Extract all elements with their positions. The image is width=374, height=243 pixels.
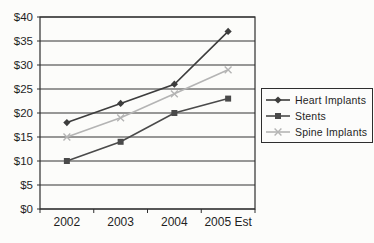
square-marker-icon xyxy=(64,158,70,164)
y-axis-label: $35 xyxy=(14,35,33,47)
x-axis-label: 2004 xyxy=(161,215,188,229)
square-marker-icon xyxy=(275,113,281,119)
square-marker-icon xyxy=(171,110,177,116)
x-axis-label: 2003 xyxy=(107,215,134,229)
legend-label: Stents xyxy=(295,110,326,122)
x-marker-icon xyxy=(171,90,178,97)
y-axis-label: $10 xyxy=(14,155,33,167)
y-axis-label: $30 xyxy=(14,59,33,71)
legend-stents-marker-icon xyxy=(266,110,290,122)
x-axis-label: 2002 xyxy=(54,215,81,229)
legend-item-heart-implants: Heart Implants xyxy=(266,93,367,106)
y-axis-label: $20 xyxy=(14,107,33,119)
legend-item-stents: Stents xyxy=(266,109,367,122)
series-line-heart-implants xyxy=(67,31,228,122)
legend-item-spine-implants: Spine Implants xyxy=(266,125,367,138)
chart-container: $0$5$10$15$20$25$30$35$40200220032004200… xyxy=(0,0,374,243)
chart-legend: Heart ImplantsStentsSpine Implants xyxy=(261,88,373,143)
y-axis-label: $25 xyxy=(14,83,33,95)
legend-label: Heart Implants xyxy=(295,94,366,106)
diamond-marker-icon xyxy=(274,96,281,103)
series-line-stents xyxy=(67,99,228,161)
x-axis-label: 2005 Est xyxy=(204,215,252,229)
square-marker-icon xyxy=(118,139,124,145)
legend-spine-implants-marker-icon xyxy=(266,126,290,138)
y-axis-label: $40 xyxy=(14,11,33,23)
x-marker-icon xyxy=(117,114,124,121)
diamond-marker-icon xyxy=(117,100,124,107)
x-marker-icon xyxy=(225,66,232,73)
diamond-marker-icon xyxy=(63,119,70,126)
y-axis-label: $5 xyxy=(20,179,33,191)
square-marker-icon xyxy=(225,96,231,102)
legend-label: Spine Implants xyxy=(295,126,367,138)
y-axis-label: $0 xyxy=(20,203,33,215)
y-axis-label: $15 xyxy=(14,131,33,143)
legend-heart-implants-marker-icon xyxy=(266,94,290,106)
